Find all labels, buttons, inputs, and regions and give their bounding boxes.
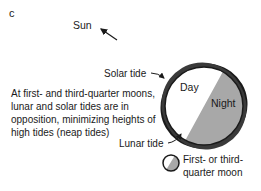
solar-tide-label: Solar tide xyxy=(104,68,146,79)
sun-label: Sun xyxy=(73,19,92,31)
solar-tide-arrow xyxy=(151,73,164,78)
lunar-tide-label: Lunar tide xyxy=(119,138,163,149)
sun-direction-arrow xyxy=(101,29,117,40)
legend-label: First- or third-quarter moon xyxy=(183,153,261,179)
night-label: Night xyxy=(211,97,236,109)
panel-label: c xyxy=(9,7,15,19)
day-label: Day xyxy=(180,81,199,93)
quarter-moon-icon xyxy=(163,152,182,175)
caption-text: At first- and third-quarter moons, lunar… xyxy=(11,87,161,139)
